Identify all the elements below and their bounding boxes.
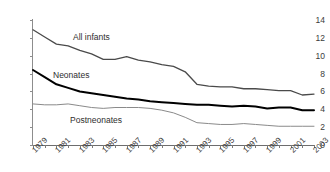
x-tick-mark <box>45 145 46 148</box>
x-tick-mark <box>232 145 233 148</box>
series-label-all-infants: All infants <box>73 33 110 42</box>
series-label-postneonates: Postneonates <box>70 116 122 125</box>
x-tick-mark <box>255 145 256 148</box>
x-tick-mark <box>138 145 139 148</box>
x-tick-mark <box>302 145 303 148</box>
x-tick-mark <box>279 145 280 148</box>
x-tick-mark <box>209 145 210 148</box>
clipped-caption <box>6 0 156 5</box>
x-tick-label: 2003 <box>312 136 330 154</box>
x-tick-mark <box>162 145 163 148</box>
x-tick-mark <box>115 145 116 148</box>
x-tick-mark <box>92 145 93 148</box>
series-label-neonates: Neonates <box>53 71 89 80</box>
x-tick-mark <box>185 145 186 148</box>
x-tick-mark <box>68 145 69 148</box>
